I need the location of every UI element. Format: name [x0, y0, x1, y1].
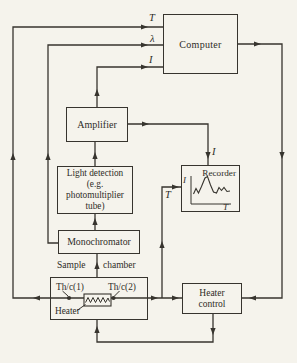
arrow-down-icon [210, 328, 215, 335]
recorder-intensity-in-label: I [212, 146, 216, 157]
sample-chamber-label-word2: chamber [103, 260, 136, 270]
wire-heater-power-loop [97, 314, 213, 342]
arrow-up-icon [94, 89, 99, 96]
sample-chamber-label-word1: Sample [57, 260, 86, 270]
arrow-left-icon [33, 295, 40, 300]
heater-label: Heater [55, 306, 80, 316]
arrow-down-icon [279, 152, 284, 159]
arrow-down-icon [205, 152, 210, 159]
arrow-right-icon [172, 184, 179, 189]
recorder-temperature-in-label: T [165, 189, 171, 200]
wire-wavelength-to-computer [48, 45, 163, 243]
arrow-right-icon [142, 121, 149, 126]
arrow-up-icon [94, 326, 99, 333]
wavelength-signal-label: λ [150, 33, 155, 44]
arrow-up-icon [45, 153, 50, 160]
arrow-left-icon [249, 295, 256, 300]
arrow-right-icon [254, 41, 261, 46]
arrow-right-icon [172, 295, 179, 300]
thermocouple-1-label: Th/c(1) [56, 282, 84, 292]
arrow-up-icon [92, 218, 97, 225]
arrow-right-icon [141, 42, 148, 47]
thermocouple-2-label: Th/c(2) [108, 282, 136, 292]
arrow-up-icon [159, 241, 164, 248]
thermocouple-1-junction [67, 296, 71, 300]
heater-coil-icon [86, 298, 110, 303]
thermocouple-2-junction [111, 296, 115, 300]
recorder-yaxis-label: I [183, 175, 186, 185]
arrow-up-icon [10, 153, 15, 160]
recorder-xaxis-label: T [223, 202, 228, 212]
wire-temperature-to-recorder [162, 187, 181, 298]
arrow-up-icon [92, 152, 97, 159]
arrow-up-icon [94, 262, 99, 269]
arrow-right-icon [141, 64, 148, 69]
temperature-signal-label: T [149, 12, 155, 23]
wire-computer-to-heater-control [238, 44, 282, 298]
wire-amplifier-to-recorder [128, 124, 208, 165]
wire-amplifier-to-computer [97, 67, 163, 107]
arrow-right-icon [151, 295, 158, 300]
flow-arrows [10, 24, 284, 335]
arrow-right-icon [141, 24, 148, 29]
block-diagram: Computer Amplifier Light detection (e.g.… [0, 0, 297, 363]
intensity-signal-label: I [149, 54, 153, 65]
recorder-chart-curve [194, 177, 231, 195]
